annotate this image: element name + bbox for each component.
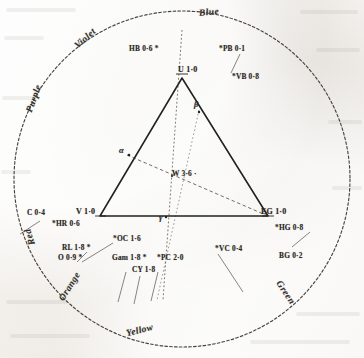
construction-line-alpha-eg [127,155,268,216]
leader-line-gam [118,272,126,302]
point-label-hr: *HR 0·6 [52,220,80,227]
vertex-label-eg: EG 1·0 [261,208,286,216]
point-label-pc: *PC 2·0 [157,254,184,261]
point-label-beta: β [194,100,199,109]
point-label-o: O 0·9 * [58,254,82,261]
point-dot-a [128,154,131,157]
leader-line-cy [134,276,140,304]
sample-point-dots [128,111,201,218]
point-dot-g [165,216,167,218]
diagram-vector-layer [0,0,364,358]
leader-line-bg [292,232,310,247]
point-label-gamma: γ [159,213,163,222]
point-label-vc: *VC 0·4 [215,245,242,252]
vertex-label-v: V 1·0 [76,208,95,216]
construction-line-beta-extended [157,110,199,300]
leader-line-pb [231,54,240,73]
point-label-vb: *VB 0·8 [232,73,259,80]
point-label-alpha: α [119,146,124,155]
point-label-c: C 0·4 [27,209,45,216]
point-label-hg: *HG 0·8 [275,224,303,231]
color-triangle [100,78,268,216]
leader-line-pc [151,272,158,301]
vertex-label-u: U 1·0 [178,66,197,74]
point-label-bg: BG 0·2 [279,252,303,259]
point-dot-b [198,111,200,113]
point-label-cy: CY 1·8 [132,266,155,273]
point-label-hb: HB 0·6 * [129,45,159,52]
point-label-w: W 3·6 · [172,170,197,177]
point-label-pb: *PB 0·1 [219,45,245,52]
figure-canvas: Blue Violet Purple Red Orange Yellow Gre… [0,0,364,358]
leader-line-vc [218,254,243,292]
point-label-gam: Gam 1·8 * [112,254,147,261]
point-label-rl: RL 1·8 * [62,244,91,251]
point-label-oc: *OC 1·6 [113,235,141,242]
